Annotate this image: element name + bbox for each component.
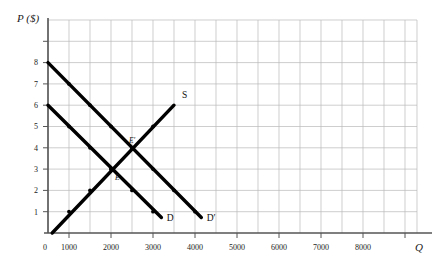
y-axis-title: P ($) <box>16 12 39 25</box>
demand-shifted-curve-label: D′ <box>207 213 216 223</box>
demand-curve-label: D <box>167 213 174 223</box>
y-tick-label-6: 6 <box>34 101 38 110</box>
x-tick-label-3000: 3000 <box>145 243 161 252</box>
x-tick-label-2000: 2000 <box>103 243 119 252</box>
x-axis-title: Q <box>415 241 423 253</box>
chart-background <box>0 0 444 262</box>
x-tick-label-4000: 4000 <box>187 243 203 252</box>
y-tick-label-8: 8 <box>34 58 38 67</box>
x-tick-label-0: 0 <box>43 243 47 252</box>
x-tick-label-1000: 1000 <box>61 243 77 252</box>
y-tick-label-7: 7 <box>34 80 38 89</box>
y-tick-label-1: 1 <box>34 208 38 217</box>
y-tick-label-4: 4 <box>34 144 38 153</box>
x-tick-label-6000: 6000 <box>271 243 287 252</box>
x-tick-label-5000: 5000 <box>229 243 245 252</box>
equilibrium-label-E-prime: E′ <box>128 136 136 145</box>
x-tick-label-8000: 8000 <box>355 243 371 252</box>
x-tick-label-7000: 7000 <box>313 243 329 252</box>
y-tick-label-5: 5 <box>34 122 38 131</box>
equilibrium-label-E: E <box>114 173 120 182</box>
chart-figure: P ($) Q 1 2 3 4 5 6 7 8 0 1000 2000 3000… <box>0 0 444 262</box>
supply-curve-label: S <box>182 90 187 100</box>
y-tick-label-3: 3 <box>34 165 38 174</box>
supply-demand-chart: P ($) Q 1 2 3 4 5 6 7 8 0 1000 2000 3000… <box>0 0 444 262</box>
y-tick-label-2: 2 <box>34 186 38 195</box>
